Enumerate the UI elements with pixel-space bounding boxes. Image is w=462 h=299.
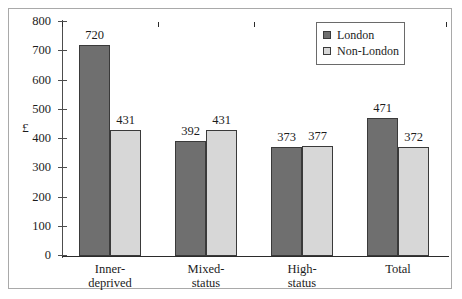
bar-london[interactable]: 392 — [175, 141, 206, 256]
chart-legend: London Non-London — [316, 22, 405, 65]
bar-value-label: 471 — [373, 101, 392, 116]
legend-item-non-london[interactable]: Non-London — [323, 43, 398, 59]
bar-value-label: 377 — [308, 129, 327, 144]
x-axis-tick — [62, 22, 63, 27]
y-axis-tick-label: 200 — [17, 188, 51, 206]
bar-value-label: 720 — [85, 28, 104, 43]
bar-value-label: 373 — [277, 130, 296, 145]
x-axis-category-label: High- status — [254, 262, 350, 290]
legend-swatch-london-icon — [323, 31, 331, 39]
y-axis-tick-label: 600 — [17, 71, 51, 89]
bar-group: 392431 — [175, 22, 237, 256]
y-axis-tick-label: 700 — [17, 41, 51, 59]
y-axis-tick-label: 800 — [17, 12, 51, 30]
y-axis-tick-label: 300 — [17, 158, 51, 176]
bar-value-label: 431 — [116, 113, 135, 128]
y-axis-tick-label: 400 — [17, 129, 51, 147]
bar-london[interactable]: 720 — [79, 45, 110, 256]
bar-london[interactable]: 471 — [367, 118, 398, 256]
bar-non-london[interactable]: 431 — [110, 130, 141, 256]
x-axis-tick — [446, 22, 447, 27]
legend-swatch-non-london-icon — [323, 47, 331, 55]
y-axis-tick: 400 — [58, 138, 67, 139]
x-axis-line — [62, 256, 449, 257]
x-axis-category-label: Inner- deprived — [62, 262, 158, 290]
bar-group: 720431 — [79, 22, 141, 256]
y-axis-tick-label: 500 — [17, 100, 51, 118]
y-axis-tick-label: 100 — [17, 217, 51, 235]
y-axis-tick: 700 — [58, 50, 67, 51]
x-axis-category-label: Mixed- status — [158, 262, 254, 290]
x-axis-tick — [158, 22, 159, 27]
legend-label-london: London — [337, 28, 374, 43]
bar-value-label: 431 — [212, 113, 231, 128]
y-axis-tick: 100 — [58, 226, 67, 227]
y-axis-tick: 200 — [58, 197, 67, 198]
y-axis-tick: 500 — [58, 109, 67, 110]
bar-london[interactable]: 373 — [271, 147, 302, 256]
y-axis-tick-label: 0 — [17, 246, 51, 264]
y-axis-tick: 0 — [58, 255, 67, 256]
y-axis-tick: 300 — [58, 167, 67, 168]
bar-chart: £ 8007006005004003002001000 720431392431… — [0, 0, 462, 299]
bar-value-label: 372 — [404, 130, 423, 145]
bar-value-label: 392 — [181, 124, 200, 139]
bar-non-london[interactable]: 372 — [398, 147, 429, 256]
legend-item-london[interactable]: London — [323, 27, 398, 43]
x-axis-tick — [254, 22, 255, 27]
x-axis-category-label: Total — [350, 262, 446, 276]
y-axis-tick: 600 — [58, 80, 67, 81]
legend-label-non-london: Non-London — [337, 44, 399, 59]
bar-non-london[interactable]: 377 — [302, 146, 333, 256]
bar-non-london[interactable]: 431 — [206, 130, 237, 256]
